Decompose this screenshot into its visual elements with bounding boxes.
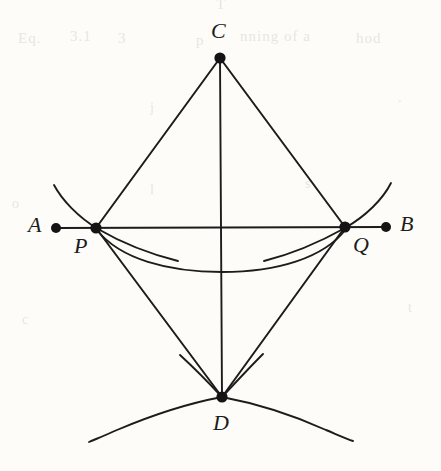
label-A: A xyxy=(28,214,41,236)
line-CQ xyxy=(220,58,345,227)
arc-tick-left-at-D xyxy=(180,355,221,396)
arc-tick-right-at-D xyxy=(223,354,263,396)
point-A-dot xyxy=(51,223,61,233)
line-CP xyxy=(96,58,220,228)
figure-canvas xyxy=(0,0,441,471)
arc-right-through-D xyxy=(222,397,353,441)
point-Q-dot xyxy=(339,221,350,232)
label-B: B xyxy=(400,213,413,235)
arc-through-P xyxy=(54,185,178,261)
label-Q: Q xyxy=(353,234,369,256)
point-C-dot xyxy=(214,52,225,63)
arc-through-Q xyxy=(264,183,391,261)
line-CD xyxy=(220,58,222,397)
arc-left-through-D xyxy=(89,397,222,442)
label-D: D xyxy=(213,412,229,434)
label-C: C xyxy=(211,20,226,42)
geometry-figure: A B C D P Q TEq.3.13pnning of ahodj.lsot… xyxy=(0,0,441,471)
line-PD xyxy=(96,228,222,397)
point-D-dot xyxy=(216,391,227,402)
label-P: P xyxy=(74,235,87,257)
line-QD xyxy=(222,227,345,397)
point-B-dot xyxy=(381,222,391,232)
point-P-dot xyxy=(90,222,101,233)
